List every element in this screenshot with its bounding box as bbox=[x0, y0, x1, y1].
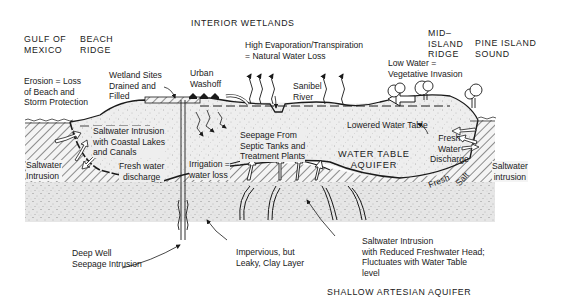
seepage-septic-annotation: Seepage From Septic Tanks and Treatment … bbox=[240, 130, 305, 162]
interior-wetlands-label: INTERIOR WETLANDS bbox=[191, 18, 295, 29]
saltwater-intrusion-left-annotation: Saltwater Intrusion bbox=[26, 160, 62, 181]
irrigation-annotation: Irrigation = water loss bbox=[189, 159, 230, 180]
water-table-aquifer-label: WATER TABLE AQUIFER bbox=[338, 149, 410, 170]
beach-ridge-label: BEACH RIDGE bbox=[80, 34, 113, 55]
pine-island-sound-label: PINE ISLAND SOUND bbox=[475, 38, 536, 59]
saltwater-coastal-lakes-annotation: Saltwater Intrusion with Coastal Lakes a… bbox=[93, 126, 165, 158]
sanibel-river-annotation: Sanibel River bbox=[293, 81, 322, 102]
erosion-annotation: Erosion = Loss of Beach and Storm Protec… bbox=[24, 76, 88, 108]
shallow-artesian-aquifer-label: SHALLOW ARTESIAN AQUIFER bbox=[327, 287, 471, 298]
deep-well-annotation: Deep Well Seepage Intrusion bbox=[72, 248, 142, 269]
lowered-water-table-annotation: Lowered Water Table bbox=[347, 120, 428, 131]
mid-island-ridge-label: MID– ISLAND RIDGE bbox=[428, 28, 463, 60]
wetland-sites-annotation: Wetland Sites Drained and Filled bbox=[109, 70, 162, 102]
gulf-of-mexico-label: GULF OF MEXICO bbox=[24, 34, 66, 55]
houses-icon bbox=[189, 93, 219, 99]
artesian-aquifer-band bbox=[25, 180, 495, 222]
saltwater-intrusion-right-annotation: Saltwater intrusion bbox=[492, 161, 528, 182]
fresh-water-discharge-right-annotation: Fresh Water Discharge bbox=[430, 133, 469, 165]
evaporation-annotation: High Evaporation/Transpiration = Natural… bbox=[245, 40, 363, 61]
urban-washoff-annotation: Urban Washoff bbox=[190, 68, 221, 89]
saltwater-reduced-head-annotation: Saltwater Intrusion with Reduced Freshwa… bbox=[362, 236, 485, 278]
clay-layer-annotation: Impervious, but Leaky, Clay Layer bbox=[236, 247, 304, 268]
low-water-annotation: Low Water = Vegetative Invasion bbox=[388, 58, 463, 79]
fresh-water-discharge-left-annotation: Fresh water discharge bbox=[119, 161, 164, 182]
